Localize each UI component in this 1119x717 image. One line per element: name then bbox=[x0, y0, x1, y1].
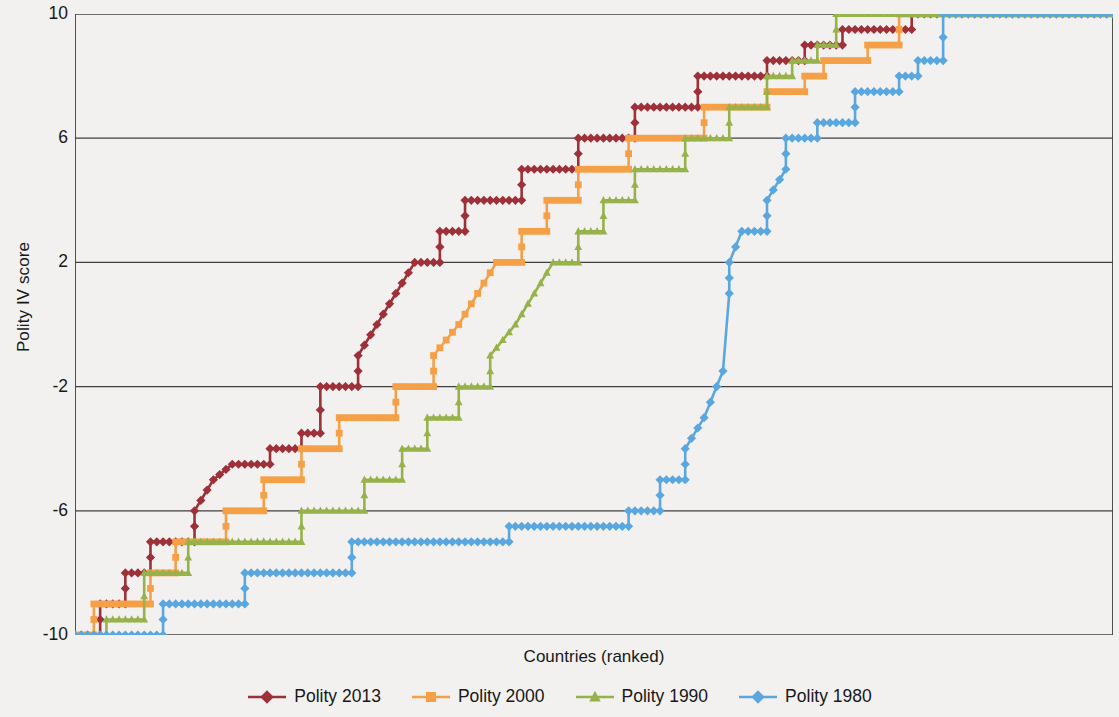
data-point-marker bbox=[581, 166, 588, 173]
y-tick-label: 2 bbox=[14, 251, 68, 272]
data-point-marker bbox=[240, 584, 249, 593]
data-point-marker bbox=[292, 476, 299, 483]
data-point-marker bbox=[229, 507, 236, 514]
diamond-marker-icon bbox=[247, 688, 287, 706]
y-axis-tick-labels: 1062-2-6-10 bbox=[8, 0, 68, 717]
data-point-marker bbox=[512, 259, 519, 266]
data-point-marker bbox=[392, 399, 399, 406]
data-point-marker bbox=[850, 118, 859, 127]
data-point-marker bbox=[801, 88, 808, 95]
data-point-marker bbox=[411, 383, 418, 390]
data-point-marker bbox=[858, 57, 865, 64]
data-point-marker bbox=[474, 290, 481, 297]
data-point-marker bbox=[625, 166, 632, 173]
y-tick-label: -10 bbox=[14, 624, 68, 645]
data-point-marker bbox=[435, 242, 444, 251]
data-point-marker bbox=[481, 280, 488, 287]
data-point-marker bbox=[820, 57, 827, 64]
data-point-marker bbox=[90, 601, 97, 608]
data-point-marker bbox=[864, 42, 871, 49]
data-point-marker bbox=[348, 414, 355, 421]
data-point-marker bbox=[418, 383, 425, 390]
legend-item-polity-2000[interactable]: Polity 2000 bbox=[411, 686, 545, 707]
data-point-marker bbox=[392, 383, 399, 390]
data-point-marker bbox=[436, 344, 443, 351]
data-point-marker bbox=[518, 259, 525, 266]
data-point-marker bbox=[537, 228, 544, 235]
data-point-marker bbox=[304, 445, 311, 452]
data-point-marker bbox=[279, 476, 286, 483]
data-point-marker bbox=[676, 135, 683, 142]
data-point-marker bbox=[273, 476, 280, 483]
legend-item-polity-1980[interactable]: Polity 1980 bbox=[738, 686, 872, 707]
data-point-marker bbox=[241, 507, 248, 514]
data-point-marker bbox=[782, 88, 789, 95]
data-point-marker bbox=[158, 615, 167, 624]
data-point-marker bbox=[493, 259, 500, 266]
data-point-marker bbox=[147, 585, 154, 592]
data-point-marker bbox=[718, 366, 727, 375]
data-point-marker bbox=[562, 197, 569, 204]
triangle-marker-icon bbox=[575, 688, 615, 706]
data-point-marker bbox=[265, 460, 274, 469]
data-point-marker bbox=[839, 57, 846, 64]
data-point-marker bbox=[190, 522, 199, 531]
data-point-marker bbox=[543, 212, 550, 219]
data-point-marker bbox=[103, 601, 110, 608]
data-point-marker bbox=[347, 568, 356, 577]
legend-label: Polity 2000 bbox=[458, 686, 545, 707]
data-point-marker bbox=[506, 259, 513, 266]
data-point-marker bbox=[518, 228, 525, 235]
data-point-marker bbox=[240, 599, 249, 608]
data-point-marker bbox=[770, 88, 777, 95]
data-point-marker bbox=[681, 475, 690, 484]
data-point-marker bbox=[543, 228, 550, 235]
data-point-marker bbox=[499, 259, 506, 266]
data-point-marker bbox=[725, 273, 734, 282]
data-point-marker bbox=[657, 135, 664, 142]
data-point-marker bbox=[443, 337, 450, 344]
data-point-marker bbox=[423, 429, 431, 436]
x-axis-title: Countries (ranked) bbox=[75, 647, 1113, 667]
data-point-marker bbox=[135, 601, 142, 608]
data-point-marker bbox=[889, 42, 896, 49]
data-point-marker bbox=[487, 269, 494, 276]
square-marker-icon bbox=[411, 688, 451, 706]
data-point-marker bbox=[619, 166, 626, 173]
data-point-marker bbox=[316, 405, 325, 414]
data-point-marker bbox=[939, 56, 948, 65]
data-point-marker bbox=[430, 383, 437, 390]
data-point-marker bbox=[574, 243, 582, 250]
data-point-marker bbox=[776, 88, 783, 95]
data-point-marker bbox=[399, 383, 406, 390]
data-point-marker bbox=[172, 538, 179, 545]
data-point-marker bbox=[712, 382, 721, 391]
data-point-marker bbox=[631, 135, 638, 142]
legend-item-polity-1990[interactable]: Polity 1990 bbox=[575, 686, 709, 707]
data-point-marker bbox=[871, 42, 878, 49]
data-point-marker bbox=[360, 491, 368, 498]
data-point-marker bbox=[405, 383, 412, 390]
data-point-marker bbox=[285, 476, 292, 483]
data-point-marker bbox=[669, 135, 676, 142]
data-point-marker bbox=[355, 414, 362, 421]
data-point-marker bbox=[575, 197, 582, 204]
data-point-marker bbox=[260, 476, 267, 483]
data-point-marker bbox=[550, 197, 557, 204]
data-point-marker bbox=[625, 150, 632, 157]
data-point-marker bbox=[814, 73, 821, 80]
data-point-marker bbox=[896, 42, 903, 49]
data-point-marker bbox=[681, 460, 690, 469]
legend-item-polity-2013[interactable]: Polity 2013 bbox=[247, 686, 381, 707]
data-point-marker bbox=[895, 87, 904, 96]
data-point-marker bbox=[147, 601, 154, 608]
data-point-marker bbox=[330, 445, 337, 452]
data-point-marker bbox=[398, 460, 406, 467]
data-point-marker bbox=[298, 476, 305, 483]
data-point-marker bbox=[707, 104, 714, 111]
data-point-marker bbox=[569, 197, 576, 204]
data-point-marker bbox=[625, 135, 632, 142]
y-tick-label: 10 bbox=[14, 3, 68, 24]
data-point-marker bbox=[260, 492, 267, 499]
legend-label: Polity 2013 bbox=[294, 686, 381, 707]
